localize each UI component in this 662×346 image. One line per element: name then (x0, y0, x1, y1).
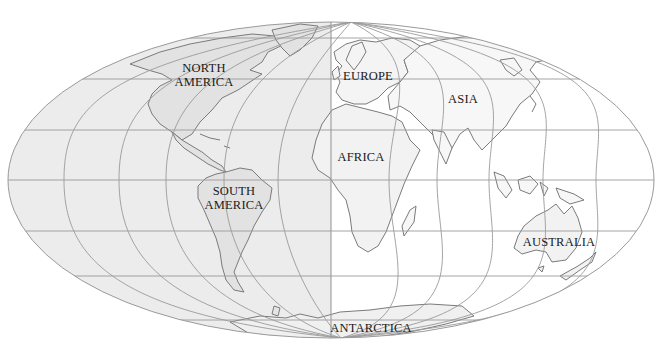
label-north-america: NORTH AMERICA (167, 61, 241, 89)
label-antarctica-text: ANTARCTICA (318, 321, 424, 335)
label-south-america: SOUTH AMERICA (197, 184, 271, 212)
label-north-america-line1: NORTH (167, 61, 241, 75)
label-europe: EUROPE (334, 69, 402, 83)
label-south-america-line1: SOUTH (197, 184, 271, 198)
land-antarctic-peninsula (272, 306, 280, 316)
label-asia-text: ASIA (440, 92, 486, 106)
label-asia: ASIA (440, 92, 486, 106)
label-africa: AFRICA (329, 150, 393, 164)
label-africa-text: AFRICA (329, 150, 393, 164)
label-antarctica: ANTARCTICA (318, 321, 424, 335)
label-australia-text: AUSTRALIA (512, 235, 606, 249)
label-south-america-line2: AMERICA (197, 198, 271, 212)
label-europe-text: EUROPE (334, 69, 402, 83)
label-north-america-line2: AMERICA (167, 75, 241, 89)
label-australia: AUSTRALIA (512, 235, 606, 249)
world-map (0, 0, 662, 346)
map-body (0, 0, 662, 346)
